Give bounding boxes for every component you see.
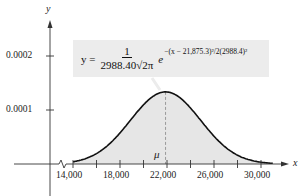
y-tick-label-0.0002: 0.0002 — [6, 50, 32, 60]
y-axis-label: y — [46, 3, 50, 14]
shaded-area — [73, 92, 273, 164]
equation-exponent: −(x − 21,875.3)²/2(2988.4)² — [164, 47, 247, 56]
mean-label: μ — [154, 148, 160, 160]
x-axis-arrow — [281, 162, 289, 167]
equation: y = 1 2988.40√2π e −(x − 21,875.3)²/2(29… — [81, 45, 247, 72]
callout-pointer — [152, 78, 160, 90]
equation-fraction: 1 2988.40√2π — [98, 45, 155, 72]
equation-numerator: 1 — [122, 45, 132, 58]
x-tick-label-22000: 22,000 — [150, 170, 176, 180]
normal-distribution-chart — [0, 0, 304, 196]
y-tick-label-0.0001: 0.0001 — [6, 104, 32, 114]
equation-callout: y = 1 2988.40√2π e −(x − 21,875.3)²/2(29… — [73, 40, 269, 77]
x-tick-label-30000: 30,000 — [244, 170, 270, 180]
equation-lhs: y = — [81, 53, 95, 65]
x-tick-label-14000: 14,000 — [56, 170, 82, 180]
equation-base: e — [158, 53, 163, 65]
x-tick-label-18000: 18,000 — [103, 170, 129, 180]
equation-denominator: 2988.40√2π — [98, 58, 155, 72]
y-axis-arrow — [48, 20, 53, 28]
x-tick-label-26000: 26,000 — [197, 170, 223, 180]
axis-break-icon — [59, 160, 66, 168]
x-axis-label: x — [293, 157, 297, 168]
